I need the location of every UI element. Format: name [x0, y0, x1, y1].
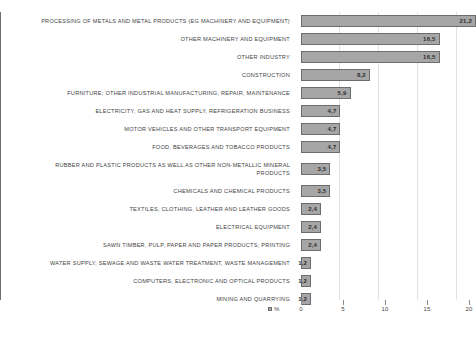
bar-value-label: 21,2 [460, 18, 475, 24]
bar-row: CHEMICALS AND CHEMICAL PRODUCTS3,5 [0, 182, 476, 200]
bar-value-label: 5,9 [338, 90, 350, 96]
x-axis-tick [427, 300, 428, 305]
category-label: ELECTRICITY, GAS AND HEAT SUPPLY, REFRIG… [8, 102, 294, 120]
bar-row: OTHER INDUSTRY16,5 [0, 48, 476, 66]
bar-row: PROCESSING OF METALS AND METAL PRODUCTS … [0, 12, 476, 30]
bar[interactable]: 4,7 [301, 141, 340, 153]
bar-track: 16,5 [301, 30, 476, 48]
bar-track: 1,2 [301, 272, 476, 290]
bar-track: 5,9 [301, 84, 476, 102]
bar-value-label: 4,7 [328, 126, 340, 132]
bar-track: 2,4 [301, 218, 476, 236]
bar-row: FURNITURE; OTHER INDUSTRIAL MANUFACTURIN… [0, 84, 476, 102]
bar-value-label: 4,7 [328, 108, 340, 114]
legend-label: % [274, 306, 279, 312]
bar-value-label: 3,5 [317, 188, 329, 194]
x-axis-tick-label: 0 [299, 306, 303, 312]
bar[interactable]: 21,2 [301, 15, 476, 27]
bar[interactable]: 1,2 [301, 257, 311, 269]
bar-rows: PROCESSING OF METALS AND METAL PRODUCTS … [0, 12, 476, 300]
bar-track: 2,4 [301, 200, 476, 218]
bar-value-label: 4,7 [328, 144, 340, 150]
bar-row: FOOD, BEVERAGES AND TOBACCO PRODUCTS4,7 [0, 138, 476, 156]
bar[interactable]: 3,5 [301, 163, 330, 175]
x-axis-tick [343, 300, 344, 305]
category-label: CHEMICALS AND CHEMICAL PRODUCTS [8, 182, 294, 200]
bar-track: 16,5 [301, 48, 476, 66]
category-label: FURNITURE; OTHER INDUSTRIAL MANUFACTURIN… [8, 84, 294, 102]
bar[interactable]: 1,2 [301, 275, 311, 287]
bar-row: WATER SUPPLY, SEWAGE AND WASTE WATER TRE… [0, 254, 476, 272]
category-label: OTHER INDUSTRY [8, 48, 294, 66]
bar-row: MOTOR VEHICLES AND OTHER TRANSPORT EQUIP… [0, 120, 476, 138]
bar-value-label: 8,2 [357, 72, 369, 78]
bar-row: ELECTRICITY, GAS AND HEAT SUPPLY, REFRIG… [0, 102, 476, 120]
bar-track: 8,2 [301, 66, 476, 84]
bar[interactable]: 2,4 [301, 221, 321, 233]
bar-chart: PROCESSING OF METALS AND METAL PRODUCTS … [0, 0, 476, 340]
x-axis-tick [469, 300, 470, 305]
bar-value-label: 2,4 [308, 224, 320, 230]
x-axis-tick-label: 5 [341, 306, 345, 312]
bar[interactable]: 5,9 [301, 87, 351, 99]
x-axis-tick-labels: 05101520 [0, 306, 476, 320]
bar-row: CONSTRUCTION8,2 [0, 66, 476, 84]
bar-track: 3,5 [301, 182, 476, 200]
bar-row: SAWN TIMBER, PULP, PAPER AND PAPER PRODU… [0, 236, 476, 254]
category-label: RUBBER AND PLASTIC PRODUCTS AS WELL AS O… [8, 156, 294, 182]
bar-row: RUBBER AND PLASTIC PRODUCTS AS WELL AS O… [0, 156, 476, 182]
bar[interactable]: 3,5 [301, 185, 330, 197]
bar-value-label: 3,5 [317, 166, 329, 172]
bar-track: 2,4 [301, 236, 476, 254]
bar[interactable]: 16,5 [301, 51, 440, 63]
category-label: SAWN TIMBER, PULP, PAPER AND PAPER PRODU… [8, 236, 294, 254]
category-label: FOOD, BEVERAGES AND TOBACCO PRODUCTS [8, 138, 294, 156]
bar-value-label: 16,5 [423, 36, 438, 42]
bar-value-label: 1,2 [298, 260, 310, 266]
bar-row: COMPUTERS, ELECTRONIC AND OPTICAL PRODUC… [0, 272, 476, 290]
category-label: COMPUTERS, ELECTRONIC AND OPTICAL PRODUC… [8, 272, 294, 290]
x-axis-tick-label: 15 [423, 306, 430, 312]
x-axis-tick [385, 300, 386, 305]
bar[interactable]: 2,4 [301, 239, 321, 251]
bar-track: 4,7 [301, 138, 476, 156]
x-axis-tick-label: 20 [465, 306, 472, 312]
bar-value-label: 2,4 [308, 206, 320, 212]
legend-swatch-icon [268, 307, 272, 311]
legend: % [268, 306, 279, 312]
bar[interactable]: 4,7 [301, 123, 340, 135]
bar-value-label: 16,5 [423, 54, 438, 60]
bar-value-label: 2,4 [308, 242, 320, 248]
x-axis-tick-label: 10 [381, 306, 388, 312]
bar-track: 4,7 [301, 102, 476, 120]
bar[interactable]: 2,4 [301, 203, 321, 215]
bar-track: 21,2 [301, 12, 476, 30]
category-label: ELECTRICAL EQUIPMENT [8, 218, 294, 236]
bar-track: 4,7 [301, 120, 476, 138]
bar-track: 1,2 [301, 254, 476, 272]
bar-value-label: 1,2 [298, 278, 310, 284]
bar-row: OTHER MACHINERY AND EQUIPMENT16,5 [0, 30, 476, 48]
category-label: MOTOR VEHICLES AND OTHER TRANSPORT EQUIP… [8, 120, 294, 138]
bar-track: 3,5 [301, 156, 476, 182]
bar[interactable]: 4,7 [301, 105, 340, 117]
bar[interactable]: 16,5 [301, 33, 440, 45]
category-label: OTHER MACHINERY AND EQUIPMENT [8, 30, 294, 48]
category-label: TEXTILES, CLOTHING, LEATHER AND LEATHER … [8, 200, 294, 218]
category-label: WATER SUPPLY, SEWAGE AND WASTE WATER TRE… [8, 254, 294, 272]
bar[interactable]: 8,2 [301, 69, 370, 81]
bar-row: ELECTRICAL EQUIPMENT2,4 [0, 218, 476, 236]
x-axis-tick [301, 300, 302, 305]
category-label: PROCESSING OF METALS AND METAL PRODUCTS … [8, 12, 294, 30]
bar-row: TEXTILES, CLOTHING, LEATHER AND LEATHER … [0, 200, 476, 218]
category-label: CONSTRUCTION [8, 66, 294, 84]
